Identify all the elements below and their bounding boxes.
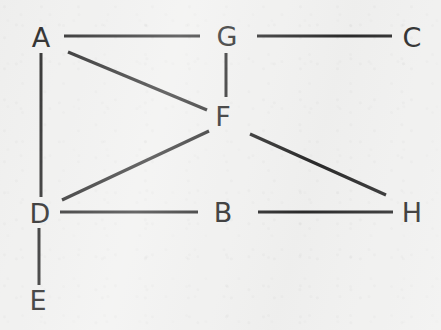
graph-edge-f-h bbox=[250, 134, 386, 195]
graph-edge-d-f bbox=[62, 131, 209, 200]
graph-node-a: A bbox=[32, 24, 50, 51]
graph-node-e: E bbox=[29, 287, 46, 314]
graph-node-f: F bbox=[215, 103, 231, 130]
graph-node-d: D bbox=[30, 200, 51, 227]
graph-node-c: C bbox=[403, 24, 422, 51]
graph-diagram-canvas: AGCFDBHE bbox=[0, 0, 441, 330]
graph-edge-a-f bbox=[68, 52, 207, 110]
graph-node-b: B bbox=[214, 199, 233, 226]
graph-node-g: G bbox=[217, 23, 238, 50]
graph-node-h: H bbox=[402, 199, 422, 226]
